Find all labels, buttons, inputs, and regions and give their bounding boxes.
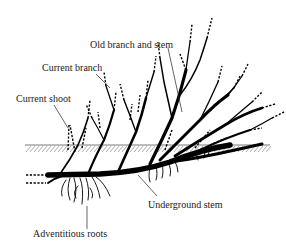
- shoot: [68, 125, 69, 150]
- old-branches: [60, 38, 272, 174]
- branch: [92, 118, 104, 140]
- shoot: [98, 112, 100, 128]
- hatch-mark: [150, 146, 155, 152]
- hatch-mark: [146, 146, 151, 152]
- shoot: [272, 112, 284, 118]
- shoot: [138, 95, 140, 112]
- root: [156, 166, 157, 180]
- shoot: [114, 92, 116, 110]
- branch: [106, 86, 114, 110]
- shoot: [242, 64, 248, 76]
- root: [62, 180, 67, 196]
- root: [86, 178, 89, 200]
- hatch-mark: [46, 146, 51, 152]
- leader-old-branch: [168, 48, 182, 112]
- hatch-mark: [262, 146, 267, 152]
- branch: [60, 118, 88, 174]
- hatch-mark: [34, 146, 39, 152]
- branch: [160, 95, 228, 160]
- label-adventitious-roots: Adventitious roots: [33, 228, 107, 239]
- leader-current-shoot: [54, 105, 68, 128]
- hatch-mark: [54, 146, 59, 152]
- branch: [186, 42, 190, 70]
- shoot: [70, 125, 75, 152]
- hatch-mark: [42, 146, 47, 152]
- hatch-mark: [258, 146, 263, 152]
- branch: [118, 98, 146, 172]
- root: [90, 188, 93, 198]
- hatch-mark: [106, 146, 111, 152]
- branch: [214, 88, 234, 105]
- label-current-shoot: Current shoot: [16, 93, 71, 104]
- root: [96, 177, 110, 196]
- root: [68, 178, 70, 200]
- hatch-mark: [118, 146, 123, 152]
- shoot: [120, 84, 124, 100]
- labels: Old branch and stem Current branch Curre…: [16, 39, 223, 239]
- hatch-mark: [162, 146, 167, 152]
- label-underground-stem: Underground stem: [148, 199, 223, 210]
- shoot: [252, 92, 262, 102]
- hatch-mark: [62, 146, 67, 152]
- shoot: [190, 24, 192, 42]
- hatch-mark: [38, 146, 43, 152]
- shoot: [180, 54, 186, 70]
- hatch-mark: [86, 146, 91, 152]
- hatch-mark: [114, 146, 119, 152]
- hatch-mark: [50, 146, 55, 152]
- label-current-branch: Current branch: [42, 62, 102, 73]
- leader-current-branch: [96, 74, 110, 88]
- hatch-mark: [134, 146, 139, 152]
- hatch-mark: [26, 146, 31, 152]
- branch: [200, 82, 218, 120]
- hatch-mark: [90, 146, 95, 152]
- root: [92, 177, 100, 198]
- hatch-mark: [58, 146, 63, 152]
- hatch-mark: [110, 146, 115, 152]
- shoot: [207, 18, 212, 38]
- root: [162, 164, 163, 178]
- branch: [160, 58, 172, 118]
- shoot: [234, 76, 240, 88]
- hatch-mark: [30, 146, 35, 152]
- hatch-mark: [266, 146, 271, 152]
- branch: [250, 118, 272, 130]
- shoot: [250, 128, 262, 130]
- shoot: [218, 66, 222, 82]
- shoot: [262, 104, 275, 108]
- root: [80, 178, 83, 204]
- hatch-mark: [102, 146, 107, 152]
- label-old-branch: Old branch and stem: [90, 39, 173, 50]
- plant-diagram: Old branch and stem Current branch Curre…: [0, 0, 286, 247]
- branch: [88, 110, 114, 174]
- leader-underground-stem: [138, 175, 157, 196]
- shoot: [154, 56, 156, 72]
- hatch-mark: [142, 146, 147, 152]
- root: [149, 168, 150, 182]
- hatch-mark: [138, 146, 143, 152]
